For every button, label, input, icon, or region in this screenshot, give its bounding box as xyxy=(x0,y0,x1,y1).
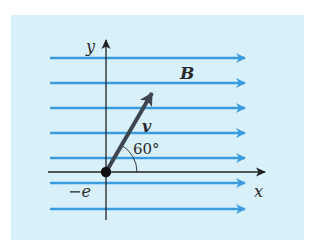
diagram-panel xyxy=(11,15,304,240)
field-label: B xyxy=(179,63,194,83)
x-axis-label: x xyxy=(254,182,263,201)
velocity-label: v xyxy=(142,117,152,136)
charge-particle xyxy=(101,167,111,177)
charge-label: −e xyxy=(68,182,91,201)
y-axis-label: y xyxy=(85,37,96,56)
magnetic-field-diagram: y x B v 60° −e xyxy=(0,0,313,246)
angle-label: 60° xyxy=(133,140,160,158)
